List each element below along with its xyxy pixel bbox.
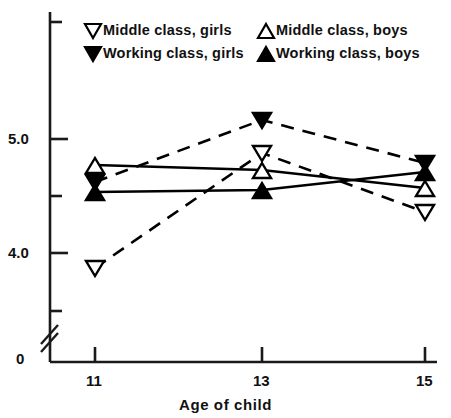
- x-tick-label-13: 13: [253, 372, 270, 389]
- chart-plot-area: [0, 0, 451, 418]
- axes-group: [41, 12, 437, 362]
- legend-label-middle-class-girls: Middle class, girls: [103, 22, 232, 38]
- legend-label-working-class-girls: Working class, girls: [103, 45, 244, 61]
- legend-icon-triangle-up-open: [258, 24, 274, 38]
- legend-label-middle-class-boys: Middle class, boys: [276, 22, 408, 38]
- legend-icon-triangle-down-open: [85, 24, 101, 38]
- x-axis-title: Age of child: [0, 396, 451, 413]
- x-tick-label-15: 15: [416, 372, 433, 389]
- legend-icon-triangle-down-filled: [85, 47, 101, 61]
- legend-label-working-class-boys: Working class, boys: [276, 45, 420, 61]
- x-axis-ticks: [95, 347, 425, 362]
- y-tick-label-0: 0: [16, 350, 24, 367]
- y-tick-label-4: 4.0: [8, 244, 29, 261]
- y-tick-label-5: 5.0: [8, 130, 29, 147]
- y-axis-ticks: [50, 22, 68, 311]
- data-markers-group: [86, 113, 434, 276]
- legend-icon-triangle-up-filled: [258, 47, 274, 61]
- x-tick-label-11: 11: [86, 372, 102, 389]
- chart-container: Middle class, girls Middle class, boys W…: [0, 0, 451, 418]
